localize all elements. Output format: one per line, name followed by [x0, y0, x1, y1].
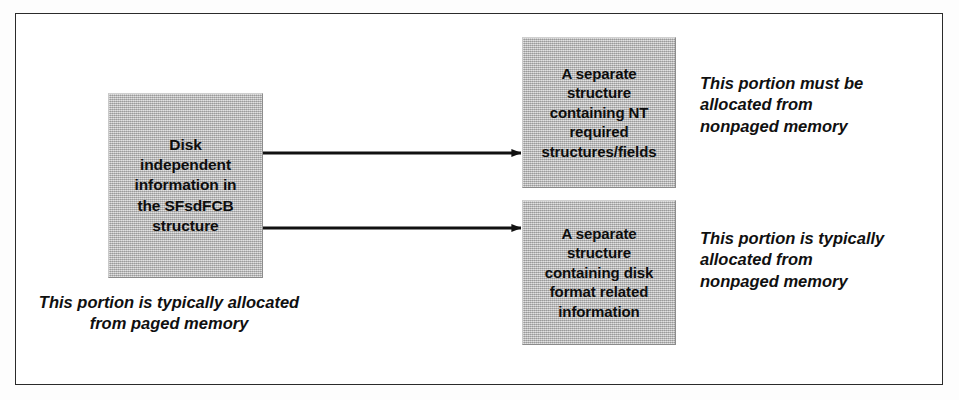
disk-independent-information-box-label: Disk independent information in the SFsd…	[129, 135, 243, 236]
paged-memory-caption: This portion is typically allocated from…	[24, 292, 314, 335]
box-line: information	[545, 302, 654, 322]
box-line: structure	[541, 83, 656, 103]
caption-line: This portion is typically allocated	[24, 292, 314, 313]
nt-required-structures-box-label: A separate structure containing NT requi…	[535, 64, 662, 162]
disk-format-information-box-label: A separate structure containing disk for…	[539, 224, 660, 322]
diagram-canvas: Disk independent information in the SFsd…	[0, 0, 959, 400]
box-line: containing NT	[541, 103, 656, 123]
box-line: Disk	[135, 135, 237, 155]
box-line: A separate	[545, 224, 654, 244]
nonpaged-memory-required-caption: This portion must be allocated from nonp…	[700, 73, 925, 137]
caption-line: This portion is typically	[700, 228, 932, 249]
nonpaged-memory-typical-caption: This portion is typically allocated from…	[700, 228, 932, 292]
disk-format-information-box: A separate structure containing disk for…	[522, 200, 676, 345]
box-line: format related	[545, 282, 654, 302]
caption-line: This portion must be	[700, 73, 925, 94]
box-line: structure	[545, 243, 654, 263]
box-line: the SFsdFCB	[135, 196, 237, 216]
caption-line: from paged memory	[24, 313, 314, 334]
box-line: required	[541, 122, 656, 142]
caption-line: nonpaged memory	[700, 116, 925, 137]
caption-line: nonpaged memory	[700, 271, 932, 292]
box-line: independent	[135, 155, 237, 175]
caption-line: allocated from	[700, 249, 932, 270]
box-line: information in	[135, 175, 237, 195]
box-line: containing disk	[545, 263, 654, 283]
nt-required-structures-box: A separate structure containing NT requi…	[522, 37, 676, 188]
disk-independent-information-box: Disk independent information in the SFsd…	[108, 93, 263, 278]
box-line: structures/fields	[541, 142, 656, 162]
box-line: A separate	[541, 64, 656, 84]
box-line: structure	[135, 216, 237, 236]
caption-line: allocated from	[700, 94, 925, 115]
